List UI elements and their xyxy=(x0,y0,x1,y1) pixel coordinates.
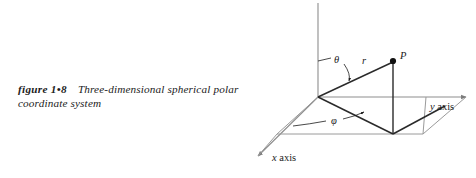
phi-label: φ xyxy=(331,115,337,126)
y-axis-label: y axis xyxy=(429,101,454,112)
radius-line xyxy=(318,62,393,97)
radius-label: r xyxy=(362,55,367,66)
theta-leader-line xyxy=(318,58,331,61)
x-axis-label-rest: axis xyxy=(277,152,297,163)
x-axis-line xyxy=(258,97,318,156)
theta-arrow xyxy=(344,64,349,81)
figure-page: figure 1•8Three-dimensional spherical po… xyxy=(0,0,476,178)
x-axis-label: x axis xyxy=(271,152,296,163)
point-p-marker xyxy=(390,58,396,64)
spherical-polar-diagram: θ φ r P y axis x axis xyxy=(0,0,476,178)
phi-leader-left xyxy=(293,121,326,126)
y-axis-label-rest: axis xyxy=(435,101,455,112)
theta-label: θ xyxy=(334,54,339,65)
point-p-label: P xyxy=(399,50,407,61)
